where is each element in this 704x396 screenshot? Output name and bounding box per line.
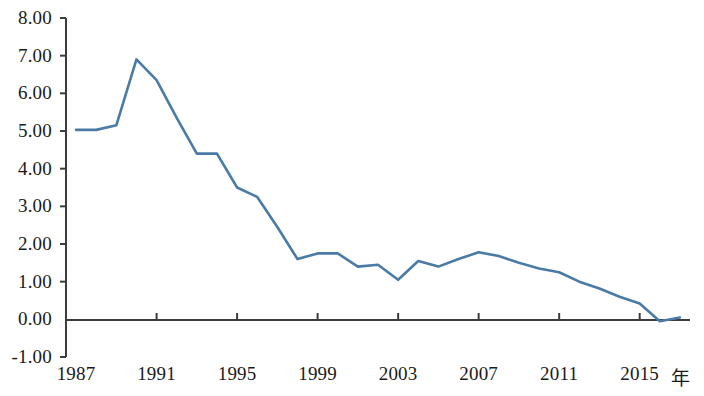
x-axis-title: 年: [671, 363, 690, 390]
x-axis-tick-label: 2007: [459, 363, 498, 385]
x-axis-tick-label: 2003: [379, 363, 418, 385]
y-axis-tick-label: 8.00: [0, 7, 52, 29]
x-axis-tick-label: 1995: [218, 363, 257, 385]
x-axis-tick-label: 2011: [540, 363, 578, 385]
y-axis-tick-label: 5.00: [0, 120, 52, 142]
x-axis-tick-label: 1999: [298, 363, 337, 385]
x-axis-tick-label: 1987: [57, 363, 96, 385]
x-axis-tick-label: 2015: [620, 363, 659, 385]
y-axis-tick-label: 0.00: [0, 308, 52, 330]
x-axis-ticks: [157, 313, 640, 320]
chart-plot-area: [0, 0, 704, 396]
x-axis-tick-label: 1991: [137, 363, 176, 385]
y-axis-tick-label: 7.00: [0, 45, 52, 67]
y-axis-tick-label: 4.00: [0, 158, 52, 180]
y-axis-tick-label: 3.00: [0, 195, 52, 217]
y-axis-tick-label: 1.00: [0, 271, 52, 293]
y-axis-tick-label: 2.00: [0, 233, 52, 255]
y-axis-tick-label: -1.00: [0, 346, 52, 368]
data-series-line: [76, 59, 680, 321]
line-chart: 8.007.006.005.004.003.002.001.000.00-1.0…: [0, 0, 704, 396]
y-axis-tick-label: 6.00: [0, 82, 52, 104]
